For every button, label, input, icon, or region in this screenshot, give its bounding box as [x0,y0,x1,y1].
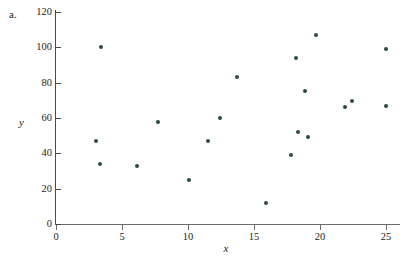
x-tick-label: 15 [239,231,269,242]
x-tick [386,225,387,230]
data-point [235,75,239,79]
y-tick-label: 20 [12,183,52,194]
x-tick-label: 25 [371,231,401,242]
y-tick-label: 40 [12,147,52,158]
data-point [384,104,388,108]
data-point [98,162,102,166]
x-tick [56,225,57,230]
x-tick-label: 0 [41,231,71,242]
x-tick-label: 5 [107,231,137,242]
x-tick [188,225,189,230]
data-point [303,89,307,93]
data-point [94,139,98,143]
data-point [218,116,222,120]
data-point [296,130,300,134]
x-tick [254,225,255,230]
y-tick-label: 0 [12,218,52,229]
data-point [314,33,318,37]
data-point [206,139,210,143]
data-point [135,164,139,168]
data-point [99,45,103,49]
data-point [187,178,191,182]
y-tick-label: 120 [12,6,52,17]
data-point [294,56,298,60]
data-point [350,99,354,103]
data-point [289,153,293,157]
data-point [384,47,388,51]
y-tick-label: 60 [12,112,52,123]
x-tick [122,225,123,230]
x-tick-label: 10 [173,231,203,242]
y-tick-label: 80 [12,77,52,88]
y-axis-title: y [19,117,24,128]
plot-area [56,12,386,224]
data-point [156,120,160,124]
data-point [306,135,310,139]
x-tick-label: 20 [305,231,335,242]
data-point [264,201,268,205]
x-tick [320,225,321,230]
data-point [343,105,347,109]
scatter-plot-figure: a. 020406080100120 0510152025 y x [0,0,407,259]
y-tick-label: 100 [12,41,52,52]
x-axis-line [55,224,400,225]
x-axis-title: x [0,243,407,254]
